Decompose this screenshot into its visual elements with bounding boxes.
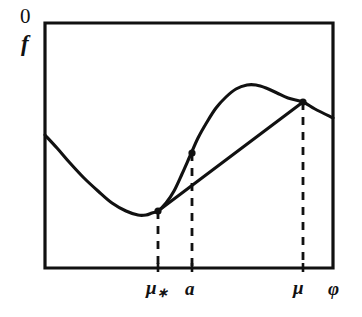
x-tick-label-a: a (185, 279, 195, 298)
figure-container: 0 f μ∗ a μ φ (0, 0, 362, 317)
x-axis-label: φ (328, 279, 339, 298)
x-tick-label-mu-star: μ∗ (146, 278, 168, 299)
marker-mu (299, 98, 306, 105)
marker-a (188, 149, 195, 156)
x-tick-label-mu-star-base: μ (146, 277, 157, 298)
origin-label: 0 (20, 6, 31, 27)
marker-mu-star (154, 207, 161, 214)
x-tick-label-mu-star-subscript: ∗ (157, 285, 168, 300)
x-tick-label-mu: μ (293, 278, 304, 297)
plot-canvas (0, 0, 362, 317)
y-axis-label: f (21, 32, 29, 55)
